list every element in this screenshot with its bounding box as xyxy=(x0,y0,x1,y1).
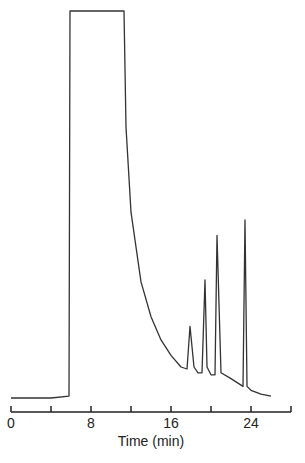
x-axis-ticks xyxy=(11,406,291,412)
chromatogram-plot xyxy=(0,0,305,463)
x-tick-label: 16 xyxy=(163,415,179,431)
x-tick-label: 0 xyxy=(7,415,15,431)
x-axis-label: Time (min) xyxy=(118,433,184,449)
x-tick-label: 8 xyxy=(87,415,95,431)
x-axis xyxy=(11,406,291,412)
chromatogram-trace xyxy=(11,11,271,398)
x-tick-label: 24 xyxy=(243,415,259,431)
